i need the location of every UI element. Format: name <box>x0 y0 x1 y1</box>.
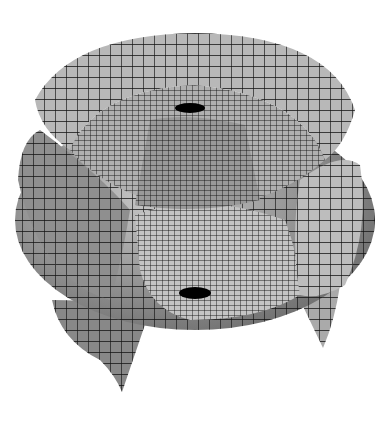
central-neck <box>135 117 260 209</box>
upper-neck-hole <box>175 103 205 113</box>
lower-funnel <box>135 204 300 320</box>
right-side-shell <box>295 160 363 296</box>
lower-neck-hole <box>179 287 211 299</box>
minimal-surface-figure <box>0 0 389 421</box>
